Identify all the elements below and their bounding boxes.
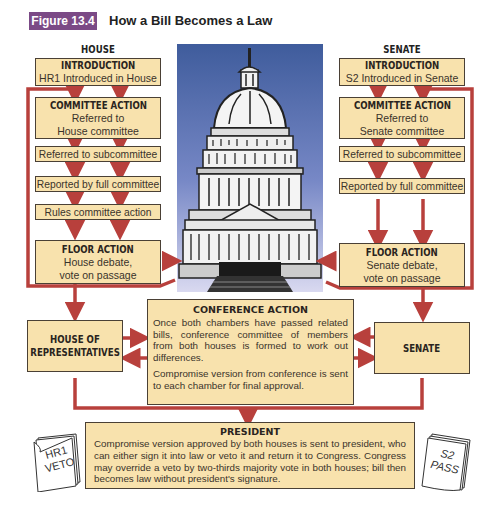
house-committee-line2: House committee: [57, 125, 139, 138]
senate-floor-action-box: FLOOR ACTION Senate debate, vote on pass…: [339, 243, 465, 287]
senate-introduction-heading: INTRODUCTION: [365, 59, 439, 72]
house-step-label: Rules committee action: [44, 206, 151, 219]
senate-floor-line1: Senate debate,: [366, 259, 437, 272]
house-chamber-line1: HOUSE OF: [50, 333, 100, 346]
s2-pass-document-icon: S2 PASS: [418, 430, 476, 492]
senate-committee-heading: COMMITTEE ACTION: [353, 99, 450, 112]
house-step-full-committee: Reported by full committee: [35, 176, 161, 192]
senate-floor-heading: FLOOR ACTION: [366, 246, 438, 259]
house-committee-heading: COMMITTEE ACTION: [49, 99, 146, 112]
president-box: PRESIDENT Compromise version approved by…: [85, 422, 415, 489]
senate-step-full-committee: Reported by full committee: [339, 178, 465, 194]
house-step-label: Reported by full committee: [37, 178, 159, 191]
hr1-veto-document-icon: HR1 VETO: [28, 430, 86, 492]
conference-paragraph-1: Once both chambers have passed related b…: [153, 317, 348, 363]
house-introduction-box: INTRODUCTION HR1 Introduced in House: [35, 58, 161, 86]
house-committee-line1: Referred to: [72, 112, 125, 125]
house-floor-line2: vote on passage: [59, 269, 136, 282]
senate-introduction-box: INTRODUCTION S2 Introduced in Senate: [339, 58, 465, 86]
house-step-rules-committee: Rules committee action: [35, 204, 161, 220]
senate-step-subcommittee: Referred to subcommittee: [339, 146, 465, 162]
house-introduction-text: HR1 Introduced in House: [39, 72, 157, 85]
conference-action-box: CONFERENCE ACTION Once both chambers hav…: [147, 299, 354, 405]
house-column-label: HOUSE: [65, 44, 130, 55]
senate-committee-line1: Referred to: [376, 112, 429, 125]
house-floor-heading: FLOOR ACTION: [62, 243, 134, 256]
senate-chamber-label: SENATE: [403, 342, 440, 355]
senate-column-label: SENATE: [369, 44, 434, 55]
house-of-representatives-box: HOUSE OF REPRESENTATIVES: [27, 320, 123, 372]
president-heading: PRESIDENT: [94, 425, 406, 438]
senate-chamber-box: SENATE: [374, 322, 470, 374]
senate-step-label: Referred to subcommittee: [343, 148, 461, 161]
house-floor-action-box: FLOOR ACTION House debate, vote on passa…: [35, 240, 161, 284]
house-committee-action-box: COMMITTEE ACTION Referred to House commi…: [35, 97, 161, 139]
senate-introduction-text: S2 Introduced in Senate: [346, 72, 459, 85]
house-step-label: Referred to subcommittee: [39, 148, 157, 161]
house-floor-line1: House debate,: [64, 256, 132, 269]
president-text: Compromise version approved by both hous…: [94, 438, 406, 485]
senate-committee-line2: Senate committee: [360, 125, 445, 138]
conference-paragraph-2: Compromise version from conference is se…: [153, 368, 348, 391]
conference-heading: CONFERENCE ACTION: [153, 303, 348, 316]
senate-floor-line2: vote on passage: [363, 272, 440, 285]
house-step-subcommittee: Referred to subcommittee: [35, 146, 161, 162]
senate-committee-action-box: COMMITTEE ACTION Referred to Senate comm…: [339, 97, 465, 139]
house-introduction-heading: INTRODUCTION: [61, 59, 135, 72]
senate-step-label: Reported by full committee: [341, 180, 463, 193]
house-chamber-line2: REPRESENTATIVES: [30, 346, 120, 359]
